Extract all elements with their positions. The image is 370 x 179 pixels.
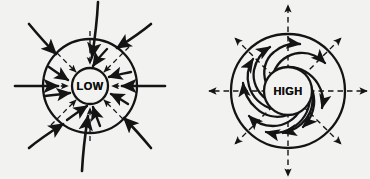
low-wind-arrow-north [92, 2, 98, 57]
low-curl-arrow-c [111, 94, 128, 104]
low-curl-arrow-e [67, 106, 87, 120]
low-curl-arrow-g [49, 67, 68, 80]
high-pressure-label-fill: HIGH [273, 85, 302, 97]
low-pressure-label-fill: LOW [77, 80, 104, 92]
low-wind-arrow-northeast [117, 24, 151, 48]
low-wind-arrow-south [82, 116, 88, 171]
low-curl-arrow-f [45, 93, 70, 96]
low-wind-arrow-southwest [29, 124, 63, 148]
high-dashed-arrow-southeast [303, 106, 341, 144]
low-dashed-arrow-northeast [104, 47, 129, 72]
low-dashed-arrow-southwest [51, 100, 76, 125]
low-dashed-arrow-southeast [104, 100, 129, 125]
low-curl-arrow-b [109, 72, 131, 77]
low-wind-arrow-southeast [124, 118, 151, 148]
low-curl-arrow-d [93, 107, 100, 126]
low-pressure-diagram: LOW LOW [15, 2, 165, 171]
low-dashed-arrow-northwest [51, 47, 76, 72]
high-dashed-arrow-northeast [303, 38, 341, 76]
high-pressure-diagram: HIGH HIGH [209, 5, 367, 176]
weather-pressure-diagram-figure: LOW LOW [0, 0, 370, 179]
figure-canvas: LOW LOW [0, 0, 370, 179]
low-wind-arrow-northwest [29, 24, 56, 54]
low-curl-arrow-a [93, 49, 107, 66]
